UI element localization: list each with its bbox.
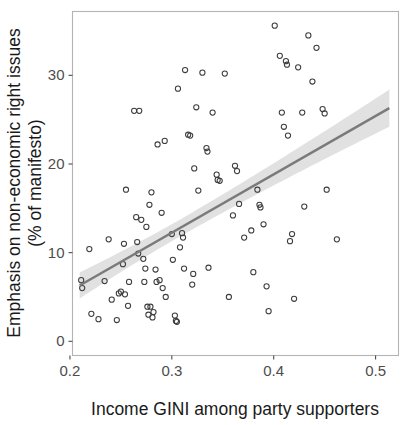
data-point [210,110,215,115]
data-point [182,67,187,72]
data-point [206,265,211,270]
data-point [310,79,315,84]
data-point [214,172,219,177]
data-point [306,33,311,38]
data-point [190,282,195,287]
data-point [322,111,327,116]
data-point [302,204,307,209]
data-point [150,315,155,320]
y-axis-ticks: 0102030 [48,66,73,349]
plot-panel-border [73,12,399,356]
data-point [155,142,160,147]
data-point [249,228,254,233]
data-point [181,266,186,271]
data-point [139,217,144,222]
data-point [137,108,142,113]
data-point [151,309,156,314]
data-point [121,241,126,246]
scatter-plot-svg: 0.20.30.40.5 0102030 Income GINI among p… [0,0,415,425]
data-point [222,71,227,76]
data-point [200,70,205,75]
y-axis-title-line1: Emphasis on non-economic right issues [4,28,24,338]
data-point [147,202,152,207]
data-point [170,257,175,262]
data-point [153,267,158,272]
data-point [261,222,266,227]
data-point [284,62,289,67]
x-axis-ticks: 0.20.30.40.5 [60,356,386,379]
data-point [251,270,256,275]
data-point [266,309,271,314]
data-point [194,105,199,110]
x-tick-label: 0.2 [60,362,81,379]
y-tick-label: 20 [48,155,65,172]
data-point [177,245,182,250]
data-point [204,145,209,150]
data-point [132,108,137,113]
data-point [162,138,167,143]
data-point [264,284,269,289]
data-point [126,279,131,284]
data-point [234,168,239,173]
data-point [196,188,201,193]
data-point [191,271,196,276]
data-point [272,23,277,28]
data-point [242,235,247,240]
data-point [172,313,177,318]
data-point [285,133,290,138]
x-tick-label: 0.3 [161,362,182,379]
data-point [230,213,235,218]
data-point [283,59,288,64]
data-point [175,86,180,91]
data-point [109,297,114,302]
data-point [114,317,119,322]
data-point [300,110,305,115]
data-point [89,311,94,316]
data-point [287,239,292,244]
data-point [142,279,147,284]
x-tick-label: 0.5 [365,362,386,379]
data-point [314,45,319,50]
data-point [279,110,284,115]
data-point [122,292,127,297]
data-point [226,294,231,299]
data-point [134,215,139,220]
y-axis-title-line2: (% of manifesto) [25,119,45,246]
data-point [149,190,154,195]
data-point [232,163,237,168]
data-point [291,296,296,301]
regression-line [80,108,390,285]
x-axis-title: Income GINI among party supporters [91,399,379,419]
data-point [281,124,286,129]
data-point [160,286,165,291]
data-point [106,237,111,242]
data-point [143,266,148,271]
data-point [277,53,282,58]
data-point [205,149,210,154]
y-tick-label: 10 [48,244,65,261]
data-point [96,317,101,322]
data-point [123,187,128,192]
data-points-group [79,23,340,324]
y-tick-label: 30 [48,66,65,83]
data-point [296,65,301,70]
data-point [159,210,164,215]
data-point [192,166,197,171]
data-point [125,303,130,308]
chart-figure: 0.20.30.40.5 0102030 Income GINI among p… [0,0,415,425]
data-point [163,294,168,299]
x-tick-label: 0.4 [263,362,284,379]
data-point [144,224,149,229]
data-point [324,187,329,192]
y-tick-label: 0 [56,332,64,349]
confidence-interval-band [80,90,390,299]
data-point [289,231,294,236]
data-point [334,237,339,242]
data-point [87,247,92,252]
